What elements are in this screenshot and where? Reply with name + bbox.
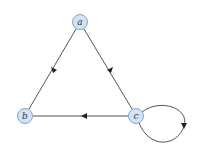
graph-canvas: a b c xyxy=(0,0,199,156)
node-b: b xyxy=(18,109,33,124)
node-c-label: c xyxy=(133,111,138,121)
arrowhead-c-self-loop xyxy=(181,123,187,129)
node-a: a xyxy=(73,15,88,30)
node-b-label: b xyxy=(22,111,28,121)
node-c: c xyxy=(129,109,144,124)
arrowhead-c-to-b xyxy=(81,113,87,119)
node-a-label: a xyxy=(77,17,82,27)
edge-c-self-loop xyxy=(139,105,185,142)
edge-a-to-c xyxy=(84,29,132,109)
